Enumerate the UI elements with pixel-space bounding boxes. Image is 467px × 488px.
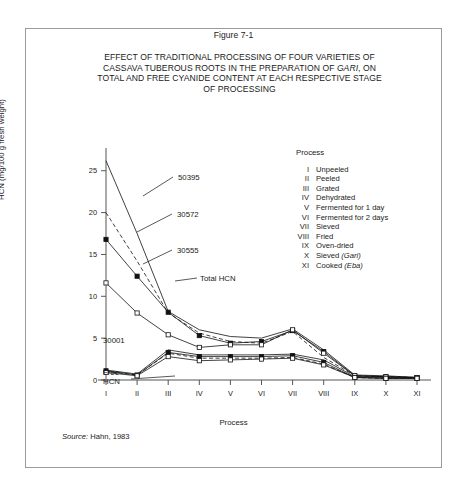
series-line bbox=[106, 213, 417, 378]
series-annotation: 30572 bbox=[177, 210, 199, 219]
source-text: Hahn, 1983 bbox=[88, 432, 129, 441]
series-annotation: HCN bbox=[103, 377, 120, 386]
series-annotation: 30001 bbox=[103, 336, 125, 345]
y-tick-label: 10 bbox=[89, 292, 97, 301]
source-label: Source: bbox=[62, 432, 88, 441]
data-point-marker bbox=[135, 374, 139, 378]
source-note: Source: Hahn, 1983 bbox=[62, 432, 130, 441]
data-point-marker bbox=[135, 311, 139, 315]
data-point-marker bbox=[259, 357, 263, 361]
data-point-marker bbox=[228, 358, 232, 362]
data-point-marker bbox=[166, 350, 170, 354]
figure-title: EFFECT OF TRADITIONAL PROCESSING OF FOUR… bbox=[30, 52, 449, 94]
y-tick-label: 5 bbox=[93, 334, 97, 343]
y-tick-label: 25 bbox=[89, 166, 97, 175]
x-tick-label: IX bbox=[351, 389, 358, 398]
x-axis-label: Process bbox=[0, 418, 467, 427]
data-point-marker bbox=[166, 333, 170, 337]
line-chart: 0510152025IIIIIIIVVVIVIIVIIIIXXXI5039530… bbox=[25, 140, 442, 440]
data-point-marker bbox=[322, 363, 326, 367]
x-tick-label: VII bbox=[288, 389, 297, 398]
figure-page: Figure 7-1 EFFECT OF TRADITIONAL PROCESS… bbox=[0, 0, 467, 488]
x-tick-label: II bbox=[135, 389, 139, 398]
y-tick-label: 20 bbox=[89, 208, 97, 217]
title-line-3: TOTAL AND FREE CYANIDE CONTENT AT EACH R… bbox=[30, 73, 449, 84]
data-point-marker bbox=[291, 328, 295, 332]
chart-plot-area: 0510152025IIIIIIIVVVIVIIVIIIIXXXI5039530… bbox=[25, 140, 442, 440]
x-tick-label: V bbox=[228, 389, 233, 398]
data-point-marker bbox=[166, 310, 170, 314]
title-line-2: CASSAVA TUBEROUS ROOTS IN THE PREPARATIO… bbox=[30, 63, 449, 74]
series-annotation: 30555 bbox=[177, 246, 199, 255]
annotation-leader bbox=[143, 250, 172, 264]
data-point-marker bbox=[259, 343, 263, 347]
title-line-2-head: CASSAVA TUBEROUS ROOTS IN THE PREPARATIO… bbox=[103, 63, 337, 73]
annotation-leader bbox=[143, 177, 173, 196]
title-line-1: EFFECT OF TRADITIONAL PROCESSING OF FOUR… bbox=[30, 52, 449, 63]
data-point-marker bbox=[415, 376, 419, 380]
series-annotation: Total HCN bbox=[200, 274, 236, 283]
figure-number: Figure 7-1 bbox=[0, 30, 467, 40]
y-tick-label: 0 bbox=[93, 376, 97, 385]
annotation-leader bbox=[137, 214, 172, 232]
data-point-marker bbox=[104, 237, 108, 241]
series-annotation: 50395 bbox=[178, 173, 200, 182]
data-point-marker bbox=[197, 359, 201, 363]
x-tick-label: IV bbox=[196, 389, 203, 398]
data-point-marker bbox=[104, 281, 108, 285]
data-point-marker bbox=[353, 375, 357, 379]
y-axis-label: HCN (mg/100 g fresh weight) bbox=[0, 99, 6, 200]
data-point-marker bbox=[322, 351, 326, 355]
data-point-marker bbox=[197, 345, 201, 349]
data-point-marker bbox=[135, 274, 139, 278]
data-point-marker bbox=[197, 355, 201, 359]
x-tick-label: VIII bbox=[318, 389, 329, 398]
x-tick-label: III bbox=[165, 389, 171, 398]
x-tick-label: I bbox=[105, 389, 107, 398]
series-annotation: Free bbox=[103, 368, 119, 377]
y-tick-label: 15 bbox=[89, 250, 97, 259]
annotation-leader bbox=[175, 278, 197, 281]
x-tick-label: X bbox=[383, 389, 388, 398]
x-tick-label: XI bbox=[414, 389, 421, 398]
data-point-marker bbox=[197, 334, 201, 338]
data-point-marker bbox=[291, 356, 295, 360]
x-tick-label: VI bbox=[258, 389, 265, 398]
data-point-marker bbox=[166, 355, 170, 359]
title-italic-gari: GARI bbox=[337, 63, 358, 73]
title-line-4: OF PROCESSING bbox=[30, 84, 449, 95]
title-line-2-tail: , ON bbox=[358, 63, 376, 73]
data-point-marker bbox=[384, 376, 388, 380]
data-point-marker bbox=[228, 343, 232, 347]
